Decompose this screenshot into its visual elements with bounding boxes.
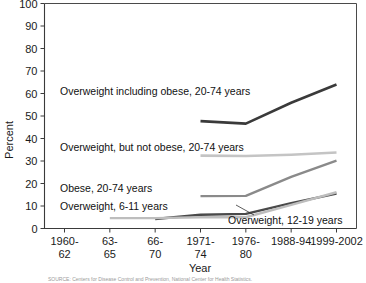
y-axis-ticks (41, 4, 45, 229)
x-tick-label-line: 70 (149, 248, 161, 260)
series-annotation-label: Overweight, but not obese, 20-74 years (60, 141, 244, 153)
data-series-line (201, 161, 337, 197)
y-axis-title: Percent (3, 121, 15, 159)
x-axis-tick-labels: 1960-6263-6566-701971-741976-801988-9419… (50, 235, 362, 260)
x-tick-label-line: 1971- (186, 235, 214, 247)
x-tick-label-line: 1999-2002 (310, 235, 363, 247)
plot-axes (45, 4, 357, 229)
y-tick-label: 80 (25, 43, 37, 55)
y-tick-label: 30 (25, 155, 37, 167)
x-tick-label: 1999-2002 (310, 235, 363, 247)
series-annotation-label: Overweight including obese, 20-74 years (60, 85, 250, 97)
x-tick-label: 1988-94 (271, 235, 311, 247)
x-tick-label: 1960-62 (50, 235, 78, 260)
x-tick-label-line: 80 (240, 248, 252, 260)
x-tick-label-line: 1960- (50, 235, 78, 247)
x-tick-label-line: 65 (104, 248, 116, 260)
y-tick-label: 90 (25, 20, 37, 32)
x-tick-label-line: 74 (194, 248, 206, 260)
y-tick-label: 70 (25, 65, 37, 77)
x-tick-label-line: 66- (147, 235, 163, 247)
x-tick-label-line: 62 (58, 248, 70, 260)
y-tick-label: 50 (25, 110, 37, 122)
x-axis-title: Year (189, 262, 212, 274)
overweight-obesity-trend-line-chart: 0102030405060708090100 1960-6263-6566-70… (0, 0, 366, 283)
source-note: SOURCE: Centers for Disease Control and … (48, 276, 252, 282)
y-tick-label: 40 (25, 133, 37, 145)
plot-border-top-right (45, 4, 357, 229)
x-tick-label: 1976-80 (232, 235, 260, 260)
x-tick-label-line: 1976- (232, 235, 260, 247)
y-tick-label: 0 (31, 223, 37, 235)
series-annotation-label: Overweight, 12-19 years (228, 214, 342, 226)
y-tick-label: 10 (25, 200, 37, 212)
y-tick-label: 100 (19, 0, 37, 10)
x-axis-ticks (65, 229, 337, 233)
x-tick-label-line: 63- (102, 235, 118, 247)
y-axis-tick-labels: 0102030405060708090100 (19, 0, 37, 235)
series-annotation-label: Obese, 20-74 years (60, 182, 152, 194)
plot-frame (45, 4, 357, 229)
chart-figure: 0102030405060708090100 1960-6263-6566-70… (0, 0, 366, 283)
x-tick-label: 1971-74 (186, 235, 214, 260)
y-tick-label: 60 (25, 88, 37, 100)
y-tick-label: 20 (25, 178, 37, 190)
x-tick-label-line: 1988-94 (271, 235, 311, 247)
series-annotation-label: Overweight, 6-11 years (60, 200, 168, 212)
x-tick-label: 66-70 (147, 235, 163, 260)
x-tick-label: 63-65 (102, 235, 118, 260)
